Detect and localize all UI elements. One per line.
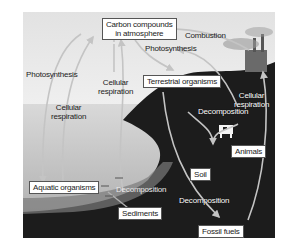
label-cellular-respiration-aquatic: Cellular respiration bbox=[51, 103, 86, 121]
node-sediments: Sediments bbox=[118, 207, 162, 220]
node-fossil-fuels: Fossil fuels bbox=[198, 225, 244, 238]
carbon-cycle-diagram: Carbon compounds in atmosphere Terrestri… bbox=[23, 12, 275, 238]
node-terrestrial-organisms: Terrestrial organisms bbox=[143, 75, 221, 88]
atmosphere-line-2: in atmosphere bbox=[106, 29, 173, 38]
label-decomposition-land: Decomposition bbox=[198, 107, 248, 116]
label-decomposition-fossil: Decomposition bbox=[179, 196, 229, 205]
label-cellular-respiration-mid: Cellular respiration bbox=[98, 78, 133, 96]
label-line: respiration bbox=[51, 112, 86, 121]
atmosphere-line-1: Carbon compounds bbox=[106, 20, 173, 29]
label-decomposition-water: Decomposition bbox=[116, 185, 166, 194]
label-line: Cellular bbox=[98, 78, 133, 87]
label-photosynthesis-terrestrial: Photosynthesis bbox=[145, 44, 196, 53]
node-animals: Animals bbox=[231, 145, 266, 158]
label-photosynthesis-aquatic: Photosynthesis bbox=[26, 70, 77, 79]
factory bbox=[245, 50, 267, 72]
label-line: respiration bbox=[98, 87, 133, 96]
node-atmosphere: Carbon compounds in atmosphere bbox=[102, 18, 177, 40]
label-combustion: Combustion bbox=[185, 31, 226, 40]
label-line: Cellular bbox=[234, 91, 269, 100]
label-line: Cellular bbox=[51, 103, 86, 112]
node-aquatic-organisms: Aquatic organisms bbox=[29, 181, 99, 194]
node-soil: Soil bbox=[190, 168, 211, 181]
